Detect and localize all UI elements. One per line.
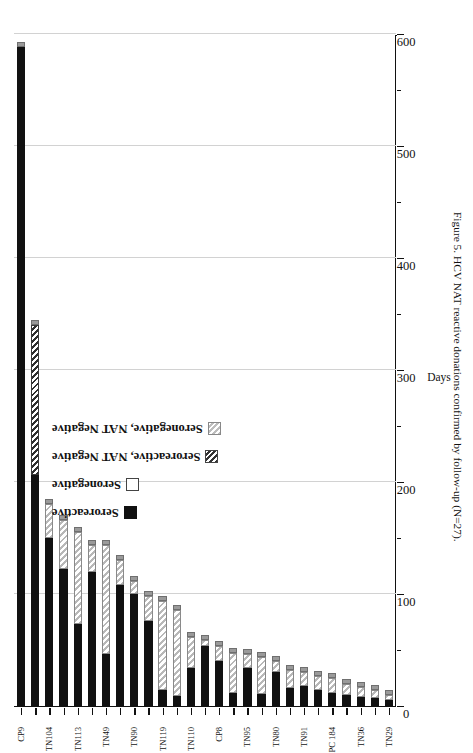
category-label: TN80 [271, 727, 281, 747]
gridline [14, 33, 396, 34]
category-tick [361, 708, 362, 715]
legend-item-seronegative-nat-negative: Seronegative, NAT Negative [52, 421, 221, 436]
bar-row [144, 591, 152, 706]
bar-segment [314, 690, 322, 706]
bar-end-cap [144, 591, 152, 596]
days-tick-label: 300 [397, 371, 416, 386]
bar-segment [215, 661, 223, 706]
category-tick [247, 708, 248, 715]
bar-segment [173, 610, 181, 696]
bar-segment [257, 694, 265, 706]
bar-end-cap [314, 671, 322, 676]
legend-label-seronegative: Seronegative [52, 477, 121, 492]
bar-row [187, 632, 195, 706]
bar-series-container [14, 35, 395, 706]
bar-row [385, 690, 393, 706]
category-label: TN95 [242, 727, 252, 747]
bar-segment [130, 594, 138, 706]
legend-item-seroreactive: Seroreactive [52, 505, 137, 520]
bar-row [116, 555, 124, 706]
bar-row [74, 527, 82, 706]
category-tick [92, 708, 93, 715]
category-tick [205, 708, 206, 715]
category-tick [78, 708, 79, 715]
bar-segment [45, 538, 53, 706]
category-tick [346, 708, 347, 715]
category-tick [35, 708, 36, 715]
bar-end-cap [328, 673, 336, 678]
category-tick [290, 708, 291, 715]
bar-segment [257, 657, 265, 694]
category-label: TN91 [299, 727, 309, 747]
bar-segment [88, 545, 96, 572]
bar-row [286, 665, 294, 706]
bar-row [59, 515, 67, 706]
chart-legend: Seroreactive Seronegative Seroreactive, … [52, 421, 221, 520]
bar-segment [385, 695, 393, 701]
category-label: TN29 [384, 727, 394, 747]
bar-row [314, 671, 322, 706]
figure-page: Seroreactive Seronegative Seroreactive, … [0, 0, 473, 753]
bar-segment [102, 545, 110, 655]
bar-end-cap [31, 320, 39, 325]
bar-segment [116, 560, 124, 585]
bar-end-cap [243, 649, 251, 654]
category-tick [332, 708, 333, 715]
category-label: TN113 [73, 727, 83, 751]
category-tick [21, 708, 22, 715]
category-tick [120, 708, 121, 715]
bar-segment [272, 672, 280, 706]
category-tick [375, 708, 376, 715]
bar-row [229, 648, 237, 706]
days-tick-label: 200 [397, 483, 416, 498]
bar-row [31, 320, 39, 706]
days-tick-label: 100 [397, 595, 416, 610]
category-tick [389, 708, 390, 715]
bar-end-cap [88, 540, 96, 545]
bar-end-cap [385, 690, 393, 695]
bar-end-cap [342, 679, 350, 684]
bar-end-cap [130, 576, 138, 581]
open-white-swatch-icon [126, 478, 139, 491]
rotated-figure-wrapper: Seroreactive Seronegative Seroreactive, … [0, 0, 473, 753]
bar-end-cap [102, 540, 110, 545]
bar-segment [187, 637, 195, 668]
category-tick [49, 708, 50, 715]
days-tick-minor [397, 650, 401, 651]
days-tick-label: 500 [397, 147, 416, 162]
bar-segment [74, 624, 82, 706]
category-tick [233, 708, 234, 715]
bar-segment [371, 698, 379, 706]
bar-end-cap [272, 656, 280, 661]
category-tick [262, 708, 263, 715]
bar-segment [314, 676, 322, 691]
category-tick [219, 708, 220, 715]
category-tick [276, 708, 277, 715]
bar-segment [328, 678, 336, 693]
bar-segment [116, 585, 124, 706]
bar-segment [357, 687, 365, 697]
bar-end-cap [201, 635, 209, 640]
bar-row [300, 667, 308, 706]
category-tick [64, 708, 65, 715]
bar-row [272, 656, 280, 706]
bar-segment [130, 581, 138, 594]
bar-row [371, 685, 379, 706]
bar-end-cap [371, 685, 379, 690]
category-tick [163, 708, 164, 715]
bar-segment [328, 693, 336, 706]
bar-segment [74, 532, 82, 624]
legend-item-seronegative: Seronegative [52, 477, 139, 492]
bar-end-cap [286, 665, 294, 670]
category-tick [177, 708, 178, 715]
bar-segment [88, 572, 96, 706]
bar-row [357, 682, 365, 706]
category-tick [148, 708, 149, 715]
bar-segment [286, 670, 294, 688]
category-label: TN36 [356, 727, 366, 747]
category-axis-ticks [14, 707, 397, 715]
days-tick-minor [397, 202, 401, 203]
bar-row [243, 649, 251, 706]
category-tick [106, 708, 107, 715]
chart-stage: Seroreactive Seronegative Seroreactive, … [0, 0, 473, 753]
